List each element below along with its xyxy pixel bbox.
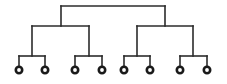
tree-leaves <box>16 67 210 73</box>
leaf-node-icon <box>147 67 153 73</box>
tree-diagram <box>0 0 227 84</box>
leaf-node-icon <box>121 67 127 73</box>
leaf-node-icon <box>204 67 210 73</box>
leaf-node-icon <box>42 67 48 73</box>
leaf-node-icon <box>16 67 22 73</box>
leaf-node-icon <box>72 67 78 73</box>
leaf-node-icon <box>177 67 183 73</box>
tree-edges <box>19 6 207 66</box>
leaf-node-icon <box>99 67 105 73</box>
